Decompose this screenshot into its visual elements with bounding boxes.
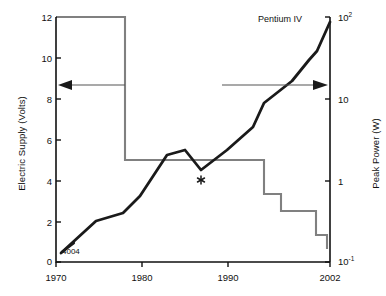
chart-plot-area	[0, 0, 386, 296]
dip-star-marker	[198, 176, 205, 184]
series-peak-power	[61, 22, 330, 253]
label-4004-leader	[62, 243, 74, 252]
axis-spine-left-bottom	[56, 17, 330, 262]
left-axis-pointer-arrow	[58, 80, 125, 90]
chart-container: Electric Supply (Volts) Peak Power (W) 1…	[0, 0, 386, 296]
right-axis-pointer-arrow	[222, 80, 328, 90]
series-electric-supply	[57, 17, 327, 249]
